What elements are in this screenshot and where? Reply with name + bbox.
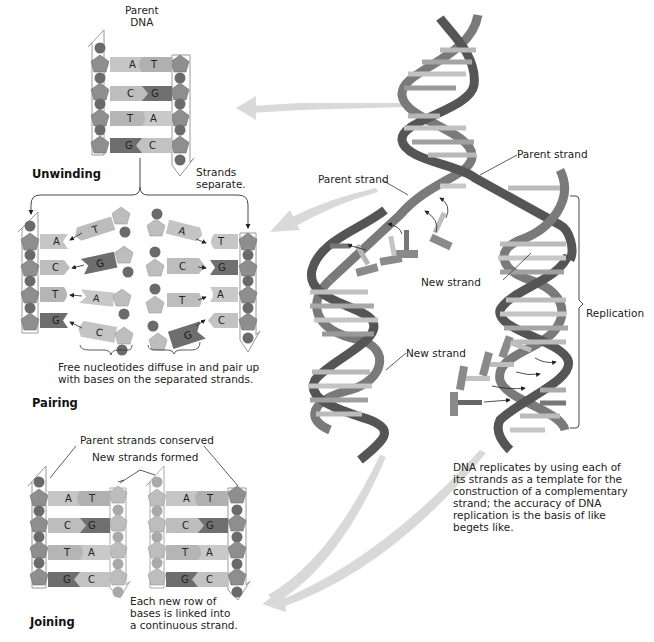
joining-note: Each new row of bases is linked into a c… (130, 595, 238, 631)
svg-text:C: C (64, 520, 71, 531)
label-new-strand-left: New strand (406, 347, 466, 359)
svg-text:C: C (206, 574, 213, 585)
joining-note-line1: Each new row of (130, 595, 238, 607)
heading-joining: Joining (30, 615, 75, 629)
summary-caption: DNA replicates by using each of its stra… (453, 461, 628, 533)
strands-separate-line1: Strands (196, 166, 246, 178)
label-new-strand-right: New strand (421, 276, 481, 288)
svg-text:G: G (88, 520, 96, 531)
pairing-caption: Free nucleotides diffuse in and pair up … (58, 361, 259, 385)
svg-text:T: T (206, 493, 214, 504)
summary-line: begets like. (453, 521, 628, 533)
label-parent-strand-left: Parent strand (318, 173, 389, 185)
parent-strands-conserved-label: Parent strands conserved (80, 434, 214, 446)
svg-text:A: A (88, 547, 95, 558)
dna-replication-illustration: A T C G T A G C A C T G (0, 0, 654, 642)
svg-text:G: G (218, 262, 226, 273)
svg-text:C: C (88, 574, 95, 585)
strands-separate-line2: separate. (196, 178, 246, 190)
base-label: G (151, 88, 159, 99)
heading-pairing: Pairing (32, 396, 78, 410)
summary-line: strand; the accuracy of DNA (453, 497, 628, 509)
base-label: A (129, 59, 136, 70)
svg-text:A: A (53, 236, 60, 247)
parent-dna-label-line2: DNA (125, 16, 159, 28)
svg-text:A: A (206, 547, 213, 558)
svg-text:T: T (51, 289, 59, 300)
helix-illustration (308, 15, 583, 460)
base-label: C (149, 140, 156, 151)
joining-diagram: AT CG TA GC AT CG TA GC (28, 446, 250, 600)
svg-text:G: G (63, 574, 71, 585)
svg-text:T: T (178, 295, 186, 306)
summary-line: its strands as a template for the (453, 473, 628, 485)
svg-text:A: A (92, 293, 100, 305)
svg-text:G: G (181, 574, 189, 585)
svg-text:T: T (217, 236, 225, 247)
svg-text:G: G (52, 315, 60, 326)
pairing-diagram: A C T G T G A C T G A (18, 207, 260, 356)
base-label: A (150, 113, 157, 124)
new-strands-formed-label: New strands formed (92, 451, 198, 463)
base-label: C (127, 88, 134, 99)
svg-text:C: C (52, 262, 59, 273)
unwinding-diagram: A T C G T A G C (88, 30, 194, 176)
svg-text:A: A (217, 289, 224, 300)
svg-text:A: A (183, 493, 190, 504)
summary-line: replication is the basis of like (453, 509, 628, 521)
svg-text:C: C (218, 315, 225, 326)
svg-text:C: C (182, 520, 189, 531)
strands-separate-note: Strands separate. (196, 166, 246, 190)
parent-dna-label-line1: Parent (125, 4, 159, 16)
svg-text:C: C (179, 261, 186, 272)
heading-unwinding: Unwinding (32, 167, 101, 181)
summary-line: DNA replicates by using each of (453, 461, 628, 473)
svg-text:G: G (206, 520, 214, 531)
base-label: T (150, 59, 158, 70)
pairing-caption-line1: Free nucleotides diffuse in and pair up (58, 361, 259, 373)
label-replication: Replication (586, 307, 644, 319)
parent-dna-label: Parent DNA (125, 4, 159, 28)
svg-text:A: A (65, 493, 72, 504)
svg-text:T: T (88, 493, 96, 504)
svg-text:T: T (63, 547, 71, 558)
pairing-caption-line2: with bases on the separated strands. (58, 373, 259, 385)
base-label: T (126, 113, 134, 124)
label-parent-strand-right: Parent strand (517, 148, 588, 160)
summary-line: construction of a complementary (453, 485, 628, 497)
svg-text:T: T (181, 547, 189, 558)
base-label: G (125, 140, 133, 151)
joining-note-line2: bases is linked into (130, 607, 238, 619)
joining-note-line3: a continuous strand. (130, 619, 238, 631)
